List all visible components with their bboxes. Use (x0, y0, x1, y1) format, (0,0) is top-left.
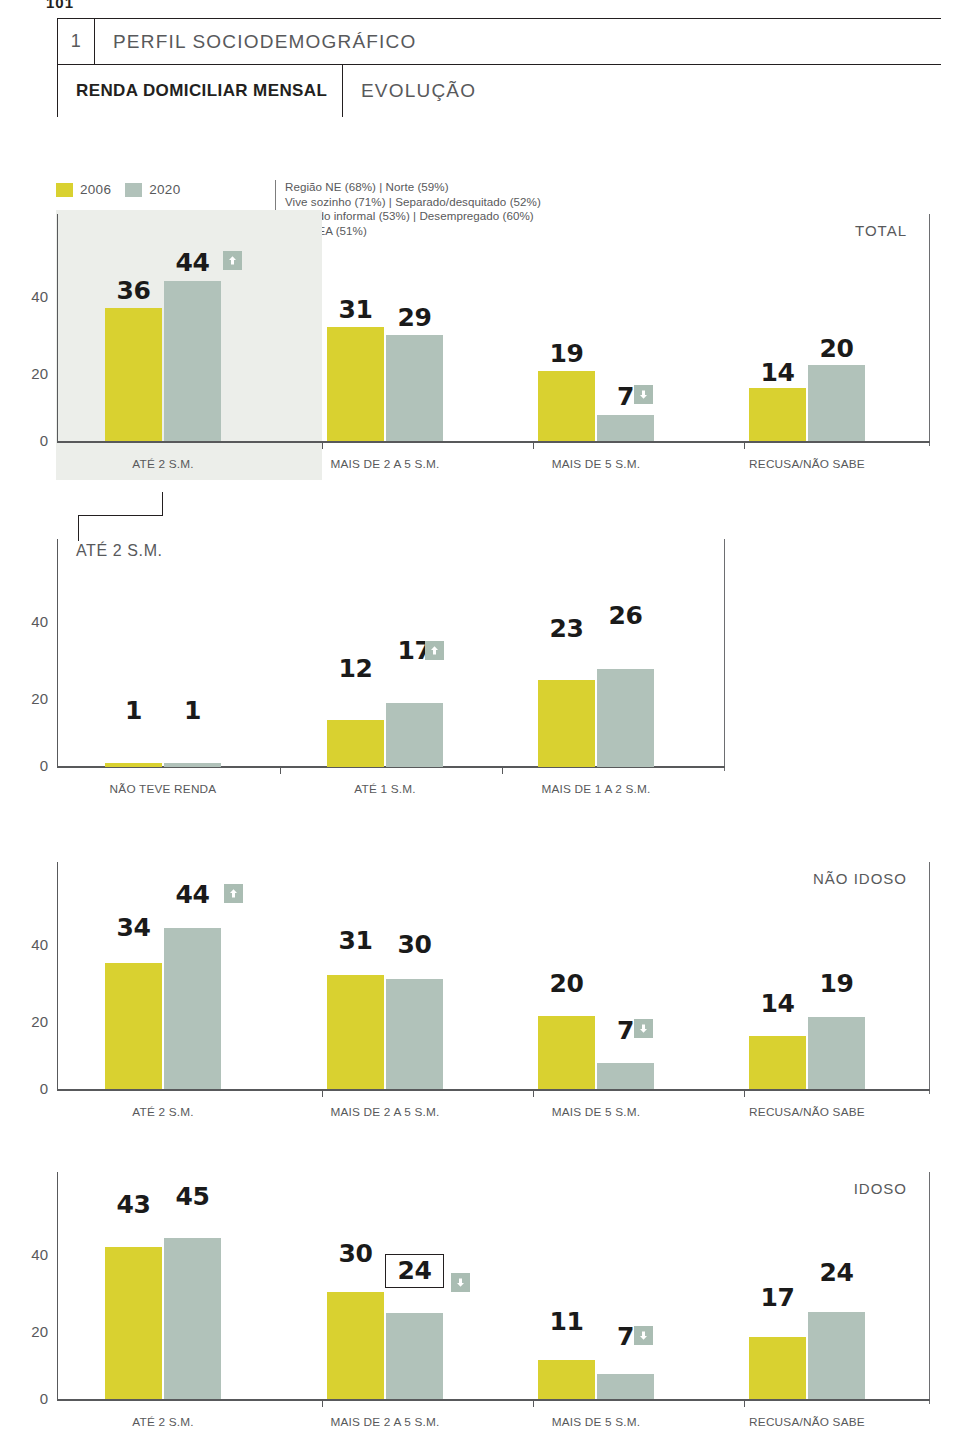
bar-2020-c2-g3 (597, 669, 654, 767)
category-label-c2-g2: ATÉ 1 S.M. (305, 782, 465, 796)
category-label-g1: ATÉ 2 S.M. (83, 457, 243, 471)
category-label-c4-g4: RECUSA/NÃO SABE (727, 1415, 887, 1429)
y-tick-0: 0 (14, 432, 48, 449)
legend-item-2006: 2006 (56, 182, 111, 197)
legend-swatch-2006 (56, 183, 73, 197)
y-tick-0-c4: 0 (14, 1390, 48, 1407)
bar-2020-c2-g1 (164, 763, 221, 767)
chart2-right-border (724, 539, 725, 771)
annotation-line-2: Vive sozinho (71%) | Separado/desquitado… (285, 195, 541, 210)
bar-2020-c4-g1 (164, 1238, 221, 1399)
y-axis-4 (57, 1172, 58, 1400)
bar-2020-c2-g2 (386, 703, 443, 767)
bar-2006-g1 (105, 308, 162, 441)
x-tick-sep-c3-1 (322, 1089, 323, 1097)
y-tick-0-c2: 0 (14, 757, 48, 774)
y-tick-40-c4: 40 (14, 1246, 48, 1263)
x-tick-sep-c4-2 (533, 1399, 534, 1407)
header-section-row: 1 PERFIL SOCIODEMOGRÁFICO (57, 18, 941, 65)
category-label-c4-g3: MAIS DE 5 S.M. (516, 1415, 676, 1429)
value-2020-c3-g2: 30 (386, 930, 443, 959)
category-label-c3-g1: ATÉ 2 S.M. (83, 1105, 243, 1119)
trend-up-icon-c3-g1 (224, 884, 243, 903)
section-number: 1 (57, 19, 95, 64)
trend-down-icon-g3 (634, 385, 653, 404)
value-2020-c3-g4: 19 (808, 969, 865, 998)
x-tick-sep-c3-3 (744, 1089, 745, 1097)
chart-inner-title: ATÉ 2 S.M. (76, 542, 163, 560)
topic-subtitle: EVOLUÇÃO (343, 65, 941, 117)
header-topic-row: RENDA DOMICILIAR MENSAL EVOLUÇÃO (57, 65, 941, 117)
bar-2006-c3-g4 (749, 1036, 806, 1089)
trend-down-icon-c4-g2 (451, 1273, 470, 1292)
bar-2006-c4-g4 (749, 1337, 806, 1399)
value-2006-c4-g2: 30 (327, 1239, 384, 1268)
value-2006-c3-g2: 31 (327, 926, 384, 955)
value-2006-c3-g3: 20 (538, 969, 595, 998)
group-connector-v1 (162, 492, 163, 516)
y-tick-40: 40 (14, 288, 48, 305)
chart-right-border (929, 214, 930, 446)
legend-label-2006: 2006 (80, 182, 111, 197)
bar-2006-g4 (749, 388, 806, 441)
value-2020-c4-g1: 45 (164, 1182, 221, 1211)
category-label-c3-g3: MAIS DE 5 S.M. (516, 1105, 676, 1119)
value-2006-g3: 19 (538, 339, 595, 368)
bar-2020-c3-g2 (386, 979, 443, 1089)
x-tick-sep-1 (322, 441, 323, 449)
bar-2006-c4-g3 (538, 1360, 595, 1399)
legend-label-2020: 2020 (149, 182, 180, 197)
y-tick-20-c4: 20 (14, 1323, 48, 1340)
group-connector-h (78, 515, 163, 516)
chart3-right-border (929, 862, 930, 1094)
value-2020-c4-g4: 24 (808, 1258, 865, 1287)
y-tick-40-c3: 40 (14, 936, 48, 953)
value-2006-g2: 31 (327, 295, 384, 324)
x-axis-3 (57, 1089, 930, 1091)
value-2020-c2-g1: 1 (164, 696, 221, 725)
trend-up-icon-c2-g2 (425, 641, 444, 660)
bar-2006-c2-g3 (538, 680, 595, 767)
value-2006-c3-g4: 14 (749, 989, 806, 1018)
category-label-c4-g2: MAIS DE 2 A 5 S.M. (305, 1415, 465, 1429)
chart-nao-idoso: NÃO IDOSO 40 20 0 34 44 ATÉ 2 S.M. 31 30… (0, 858, 967, 1128)
chart-corner-label-idoso: IDOSO (854, 1180, 907, 1197)
category-label-c3-g4: RECUSA/NÃO SABE (727, 1105, 887, 1119)
chart-ate-2-sm: ATÉ 2 S.M. 40 20 0 1 1 NÃO TEVE RENDA 12… (0, 535, 967, 800)
x-tick-sep-2 (533, 441, 534, 449)
category-label-c2-g1: NÃO TEVE RENDA (83, 782, 243, 796)
value-2006-c3-g1: 34 (105, 913, 162, 942)
bar-2006-g2 (327, 327, 384, 441)
category-label-c3-g2: MAIS DE 2 A 5 S.M. (305, 1105, 465, 1119)
chart-idoso: IDOSO 40 20 0 43 45 ATÉ 2 S.M. 30 24 MAI… (0, 1168, 967, 1453)
x-tick-sep-c3-2 (533, 1089, 534, 1097)
legend-item-2020: 2020 (125, 182, 180, 197)
bar-2020-c3-g1 (164, 928, 221, 1089)
value-2006-c2-g3: 23 (538, 614, 595, 643)
value-2006-c4-g4: 17 (749, 1283, 806, 1312)
x-tick-sep-3 (744, 441, 745, 449)
section-title: PERFIL SOCIODEMOGRÁFICO (95, 19, 941, 64)
y-tick-40-c2: 40 (14, 613, 48, 630)
x-tick-sep-c4-1 (322, 1399, 323, 1407)
bar-2020-g4 (808, 365, 865, 441)
bar-2020-c3-g4 (808, 1017, 865, 1089)
bar-2006-c2-g1 (105, 763, 162, 767)
category-label-c2-g3: MAIS DE 1 A 2 S.M. (516, 782, 676, 796)
y-tick-0-c3: 0 (14, 1080, 48, 1097)
value-2020-c4-g2-boxed: 24 (385, 1254, 444, 1288)
y-axis-3 (57, 862, 58, 1090)
x-axis (57, 441, 930, 443)
page-header: 1 PERFIL SOCIODEMOGRÁFICO RENDA DOMICILI… (57, 18, 941, 117)
value-2020-g1: 44 (164, 248, 221, 277)
x-tick-sep-c4-3 (744, 1399, 745, 1407)
value-2020-c2-g3: 26 (597, 601, 654, 630)
value-2020-c3-g1: 44 (164, 880, 221, 909)
x-axis-4 (57, 1399, 930, 1401)
bar-2020-c3-g3 (597, 1063, 654, 1089)
value-2006-c4-g3: 11 (538, 1307, 595, 1336)
category-label-g4: RECUSA/NÃO SABE (727, 457, 887, 471)
topic-title: RENDA DOMICILIAR MENSAL (57, 65, 343, 117)
bar-2020-c4-g4 (808, 1312, 865, 1399)
y-tick-20: 20 (14, 365, 48, 382)
